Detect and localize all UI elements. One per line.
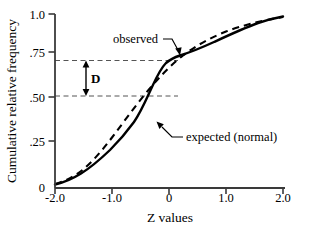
y-tick-label-0: 0 [39,181,45,195]
y-tick-label-050: .50 [29,91,45,105]
d-statistic-label: D [91,71,100,86]
expected-normal-leader-line [162,127,183,137]
observed-annotation-label: observed [113,32,159,46]
x-axis-title: Z values [147,210,193,225]
x-tick-label-2: 2.0 [275,191,291,205]
y-tick-marks [49,14,56,141]
x-tick-label-neg1: -1.0 [102,191,122,205]
d-arrow-head-down [83,89,90,96]
y-tick-label-075: .75 [29,46,45,60]
x-tick-label-0: 0 [166,191,172,205]
axes [55,14,285,188]
expected-normal-curve [55,17,283,184]
y-tick-labels: 1.0 .75 .50 .25 0 [29,8,45,196]
y-tick-label-1: 1.0 [29,8,45,22]
y-tick-label-025: .25 [29,135,45,149]
y-axis-title: Cumulative relative frequency [4,19,19,183]
d-statistic-arrow [83,61,90,97]
cdf-comparison-chart: D 1.0 .75 .50 .25 [0,0,311,238]
expected-normal-annotation-label: expected (normal) [186,130,277,144]
chart-canvas: D 1.0 .75 .50 .25 [0,0,311,238]
observed-leader-line [163,39,178,50]
d-arrow-head-up [83,61,90,68]
observed-annotation: observed [113,32,182,56]
expected-normal-annotation: expected (normal) [157,122,278,145]
x-tick-label-neg2: -2.0 [45,191,65,205]
x-tick-labels: -2.0 -1.0 0 1.0 2.0 [45,191,291,205]
x-tick-label-1: 1.0 [218,191,234,205]
observed-curve [55,17,283,185]
